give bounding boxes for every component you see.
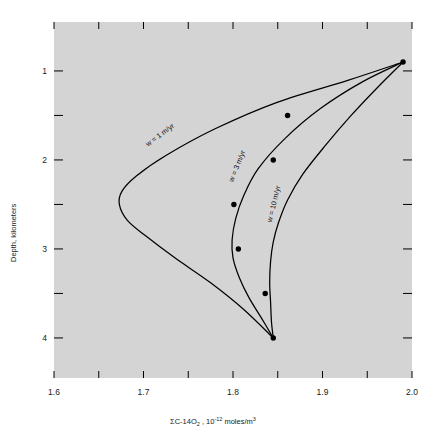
data-point	[400, 59, 405, 64]
y-tick-label: 3	[42, 244, 47, 254]
x-title-units-sup: 3	[253, 416, 256, 422]
data-point	[271, 335, 276, 340]
x-tick-label: 2.0	[406, 387, 418, 397]
x-axis-title: ΣC-14O2 , 10-12 moles/m3	[170, 416, 256, 427]
y-tick-label: 1	[42, 66, 47, 76]
chart-plot: w = 1 m/yrw = 3 m/yrw = 10 m/yr 1.61.71.…	[0, 0, 436, 445]
y-tick-label: 4	[42, 333, 47, 343]
data-point	[236, 246, 241, 251]
figure-container: w = 1 m/yrw = 3 m/yrw = 10 m/yr 1.61.71.…	[0, 0, 436, 445]
x-tick-label: 1.6	[48, 387, 60, 397]
x-title-species: C-14O	[175, 417, 197, 426]
x-tick-labels: 1.61.71.81.92.0	[48, 387, 418, 397]
y-tick-labels: 1234	[42, 66, 47, 343]
x-title-exponent: -12	[214, 416, 222, 422]
data-point	[271, 157, 276, 162]
x-tick-label: 1.8	[227, 387, 239, 397]
x-title-mantissa: 10	[206, 417, 214, 426]
y-axis-title: Depth, kilometers	[9, 203, 18, 262]
x-tick-label: 1.7	[138, 387, 150, 397]
x-title-units: moles/m	[222, 417, 252, 426]
x-tick-label: 1.9	[317, 387, 329, 397]
plot-background	[54, 22, 412, 378]
data-point	[231, 202, 236, 207]
y-tick-label: 2	[42, 155, 47, 165]
data-point	[263, 291, 268, 296]
data-point	[285, 113, 290, 118]
svg-text:ΣC-14O2 , 10-12 moles/m3: ΣC-14O2 , 10-12 moles/m3	[170, 416, 256, 427]
